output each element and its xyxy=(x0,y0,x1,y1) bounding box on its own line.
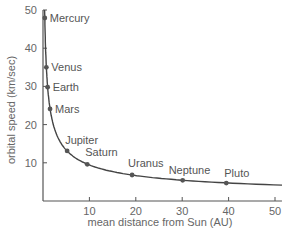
planet-label: Saturn xyxy=(85,146,117,158)
marker-dot xyxy=(130,173,135,178)
planet-label: Mars xyxy=(55,103,80,115)
orbital-speed-chart: 10203040501020304050 MercuryVenusEarthMa… xyxy=(0,0,289,237)
x-tick-label: 50 xyxy=(269,205,281,217)
planet-label: Venus xyxy=(51,61,82,73)
x-axis-title: mean distance from Sun (AU) xyxy=(88,216,233,228)
planet-point-earth: Earth xyxy=(45,81,79,93)
y-tick-label: 50 xyxy=(25,4,37,16)
y-tick-label: 40 xyxy=(25,42,37,54)
planet-points: MercuryVenusEarthMarsJupiterSaturnUranus… xyxy=(42,12,249,185)
planet-label: Uranus xyxy=(128,157,164,169)
marker-dot xyxy=(85,162,90,167)
planet-label: Mercury xyxy=(50,12,90,24)
y-tick-label: 20 xyxy=(25,119,37,131)
planet-label: Pluto xyxy=(224,167,249,179)
planet-point-mars: Mars xyxy=(48,103,80,115)
marker-dot xyxy=(48,107,53,112)
planet-label: Earth xyxy=(53,81,79,93)
y-axis-title: orbital speed (km/sec) xyxy=(5,56,17,164)
y-tick-label: 10 xyxy=(25,157,37,169)
marker-dot xyxy=(42,16,47,21)
marker-dot xyxy=(44,65,49,70)
marker-dot xyxy=(180,178,185,183)
planet-label: Neptune xyxy=(169,164,211,176)
planet-point-venus: Venus xyxy=(44,61,82,73)
marker-dot xyxy=(65,149,70,154)
planet-point-saturn: Saturn xyxy=(85,146,118,166)
marker-dot xyxy=(224,181,229,186)
marker-dot xyxy=(45,85,50,90)
planet-label: Jupiter xyxy=(65,134,98,146)
y-tick-label: 30 xyxy=(25,80,37,92)
planet-point-uranus: Uranus xyxy=(128,157,164,177)
planet-point-mercury: Mercury xyxy=(42,12,90,24)
